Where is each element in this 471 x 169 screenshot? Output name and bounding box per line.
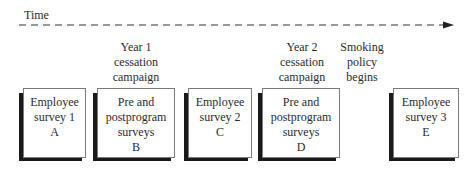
box-line: E xyxy=(394,125,458,140)
event-year1-campaign: Year 1 cessation campaign xyxy=(113,40,160,85)
arrowhead-icon xyxy=(443,22,454,29)
box-line: surveys xyxy=(263,125,339,140)
event-line: campaign xyxy=(279,70,326,85)
box-line: D xyxy=(263,140,339,155)
box-face: Pre and postprogram surveys B xyxy=(97,88,175,158)
box-line: survey 3 xyxy=(394,110,458,125)
box-line: Employee xyxy=(24,95,85,110)
box-line: Pre and xyxy=(263,95,339,110)
event-line: cessation xyxy=(279,55,326,70)
box-line: A xyxy=(24,125,85,140)
box-line: postprogram xyxy=(263,110,339,125)
box-face: Employee survey 3 E xyxy=(393,88,459,158)
event-smoking-policy: Smoking policy begins xyxy=(340,40,383,85)
event-line: campaign xyxy=(113,70,160,85)
box-line: C xyxy=(189,125,251,140)
box-line: B xyxy=(98,140,174,155)
box-face: Employee survey 1 A xyxy=(23,88,86,158)
box-line: Employee xyxy=(394,95,458,110)
event-line: Smoking xyxy=(340,40,383,55)
event-line: Year 2 xyxy=(279,40,326,55)
box-line: Employee xyxy=(189,95,251,110)
box-face: Employee survey 2 C xyxy=(188,88,252,158)
event-line: Year 1 xyxy=(113,40,160,55)
box-face: Pre and postprogram surveys D xyxy=(262,88,340,158)
box-line: postprogram xyxy=(98,110,174,125)
box-line: Pre and xyxy=(98,95,174,110)
box-line: survey 2 xyxy=(189,110,251,125)
event-year2-campaign: Year 2 cessation campaign xyxy=(279,40,326,85)
event-line: begins xyxy=(340,70,383,85)
box-line: surveys xyxy=(98,125,174,140)
event-line: cessation xyxy=(113,55,160,70)
timeline-arrow xyxy=(19,20,455,30)
box-line: survey 1 xyxy=(24,110,85,125)
event-line: policy xyxy=(340,55,383,70)
